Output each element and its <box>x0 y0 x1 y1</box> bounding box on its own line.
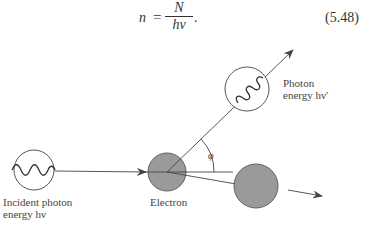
incident-photon-label-line2: energy hν <box>3 208 72 220</box>
incident-photon-label-line1: Incident photon <box>3 196 72 208</box>
angle-phi-label: φ <box>208 150 214 162</box>
scattered-photon-circle <box>225 67 269 111</box>
scattered-photon-label-line2: energy hν′ <box>283 89 328 101</box>
scattered-photon-label-line1: Photon <box>283 77 328 89</box>
scattered-photon-arrow <box>167 50 293 172</box>
recoil-electron-circle <box>234 164 278 208</box>
scattered-photon-label: Photon energy hν′ <box>283 77 328 101</box>
compton-scattering-diagram <box>0 0 379 225</box>
scattered-photon <box>167 50 293 172</box>
electron-label: Electron <box>150 196 187 208</box>
recoil-direction-arrow <box>288 190 322 196</box>
recoil-electron <box>167 164 322 208</box>
incident-arrow <box>55 171 146 172</box>
incident-photon-label: Incident photon energy hν <box>3 196 72 220</box>
incident-photon <box>12 150 146 190</box>
